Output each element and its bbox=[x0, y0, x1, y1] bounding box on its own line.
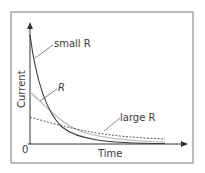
leader-r bbox=[40, 89, 57, 101]
leader-small-r bbox=[35, 45, 53, 58]
origin-label: 0 bbox=[22, 144, 28, 155]
x-axis-arrow-icon bbox=[181, 141, 188, 147]
leader-large-r bbox=[104, 118, 120, 131]
curve-small-r bbox=[30, 35, 165, 144]
label-r: R bbox=[58, 82, 65, 93]
rc-discharge-diagram: small R R large R Time 0 Current bbox=[0, 0, 205, 173]
y-axis-label: Current bbox=[16, 70, 27, 108]
y-axis-arrow-icon bbox=[27, 22, 33, 29]
x-axis-label: Time bbox=[97, 148, 122, 159]
label-large-r: large R bbox=[120, 112, 156, 123]
label-small-r: small R bbox=[54, 38, 91, 49]
